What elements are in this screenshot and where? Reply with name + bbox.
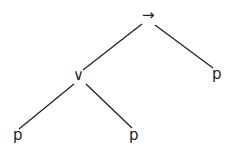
node-p-right: p — [212, 67, 222, 82]
edge-root-or — [83, 24, 142, 70]
tree-edges — [0, 0, 232, 154]
node-p-mid: p — [129, 128, 139, 143]
edge-or-p-mid — [86, 84, 132, 128]
edge-root-p-right — [155, 25, 213, 68]
node-disjunction: ∨ — [73, 68, 84, 83]
node-implication: → — [142, 8, 155, 23]
edge-or-p-left — [19, 84, 74, 129]
node-p-left: p — [13, 128, 23, 143]
